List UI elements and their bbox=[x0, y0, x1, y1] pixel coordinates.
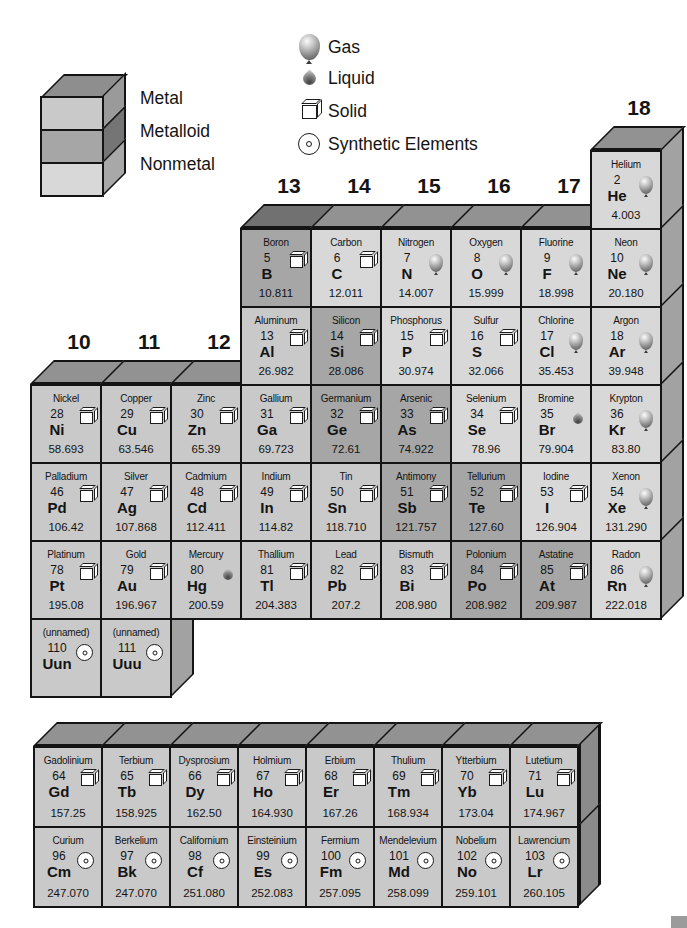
element-cell-au: Gold79Au196.967 bbox=[100, 540, 172, 620]
metalloid-label: Metalloid bbox=[140, 121, 210, 142]
element-name: Selenium bbox=[452, 393, 520, 404]
element-cell-si: Silicon14Si28.086 bbox=[310, 306, 382, 386]
solid-cube-icon bbox=[500, 568, 513, 580]
synthetic-circle-icon bbox=[485, 852, 502, 869]
solid-cube-icon bbox=[220, 412, 233, 424]
element-cell-lu: Lutetium71Lu174.967 bbox=[509, 746, 579, 828]
solid-cube-icon bbox=[290, 488, 303, 506]
solid-cube-icon bbox=[290, 412, 303, 424]
solid-cube-icon bbox=[570, 490, 583, 502]
atomic-mass: 30.974 bbox=[382, 365, 450, 377]
gas-balloon-icon bbox=[569, 254, 583, 276]
solid-cube-icon bbox=[430, 490, 443, 502]
atomic-mass: 127.60 bbox=[452, 521, 520, 533]
element-cell-cl: Chlorine17Cl35.453 bbox=[520, 306, 592, 386]
element-cell-hg: Mercury80Hg200.59 bbox=[170, 540, 242, 620]
element-cell-bk: Berkelium97Bk247.070 bbox=[101, 826, 171, 908]
element-cell-sb: Antimony51Sb121.757 bbox=[380, 462, 452, 542]
liquid-label: Liquid bbox=[328, 68, 375, 89]
liquid-legend-row: Liquid bbox=[290, 68, 375, 89]
element-name: Helium bbox=[592, 159, 660, 170]
solid-cube-icon bbox=[290, 256, 303, 268]
solid-cube-icon bbox=[353, 772, 366, 790]
synthetic-circle-icon bbox=[213, 852, 230, 873]
atomic-mass: 39.948 bbox=[592, 365, 660, 377]
gas-balloon-icon bbox=[639, 410, 653, 428]
element-name: Germanium bbox=[312, 393, 380, 404]
gas-balloon-icon bbox=[639, 566, 653, 588]
element-cell-no: Nobelium102No259.101 bbox=[441, 826, 511, 908]
element-cell-tm: Thulium69Tm168.934 bbox=[373, 746, 443, 828]
synthetic-circle-icon bbox=[298, 133, 320, 155]
solid-cube-icon bbox=[220, 410, 233, 428]
solid-cube-icon bbox=[353, 774, 366, 786]
solid-cube-icon bbox=[360, 488, 373, 506]
element-cell-cm: Curium96Cm247.070 bbox=[33, 826, 103, 908]
element-name: Radon bbox=[592, 549, 660, 560]
solid-cube-icon bbox=[360, 412, 373, 424]
element-cell-at: Astatine85At209.987 bbox=[520, 540, 592, 620]
solid-cube-icon bbox=[217, 772, 230, 790]
solid-cube-icon bbox=[302, 105, 317, 119]
atomic-mass: 167.26 bbox=[307, 807, 373, 819]
element-name: (unnamed) bbox=[102, 627, 170, 638]
solid-cube-icon bbox=[150, 490, 163, 502]
solid-cube-icon bbox=[557, 772, 570, 790]
element-name: Sulfur bbox=[452, 315, 520, 326]
solid-cube-icon bbox=[290, 334, 303, 346]
atomic-mass: 131.290 bbox=[592, 521, 660, 533]
synthetic-circle-icon bbox=[145, 852, 162, 873]
element-name: Carbon bbox=[312, 237, 380, 248]
solid-cube-icon bbox=[360, 332, 373, 350]
solid-cube-icon bbox=[430, 334, 443, 346]
group-header-18: 18 bbox=[604, 96, 674, 120]
element-cell-in: Indium49In114.82 bbox=[240, 462, 312, 542]
element-name: Arsenic bbox=[382, 393, 450, 404]
element-name: Terbium bbox=[103, 755, 169, 766]
element-cell-pd: Palladium46Pd106.42 bbox=[30, 462, 102, 542]
atomic-mass: 259.101 bbox=[443, 887, 509, 899]
atomic-mass: 26.982 bbox=[242, 365, 310, 377]
element-cell-yb: Ytterbium70Yb173.04 bbox=[441, 746, 511, 828]
synthetic-circle-icon bbox=[281, 852, 298, 873]
element-cell-o: Oxygen8O15.999 bbox=[450, 228, 522, 308]
element-cell-md: Mendelevium101Md258.099 bbox=[373, 826, 443, 908]
element-name: Nickel bbox=[32, 393, 100, 404]
gas-balloon-icon bbox=[639, 488, 653, 506]
element-cell-cd: Cadmium48Cd112.411 bbox=[170, 462, 242, 542]
element-name: Mercury bbox=[172, 549, 240, 560]
element-name: Erbium bbox=[307, 755, 373, 766]
element-name: Oxygen bbox=[452, 237, 520, 248]
atomic-mass: 12.011 bbox=[312, 287, 380, 299]
element-cell-ne: Neon10Ne20.180 bbox=[590, 228, 662, 308]
solid-cube-icon bbox=[150, 410, 163, 428]
atomic-mass: 208.980 bbox=[382, 599, 450, 611]
solid-cube-icon bbox=[360, 566, 373, 584]
solid-cube-icon bbox=[290, 568, 303, 580]
element-cell-s: Sulfur16S32.066 bbox=[450, 306, 522, 386]
atomic-mass: 72.61 bbox=[312, 443, 380, 455]
solid-cube-icon bbox=[220, 488, 233, 506]
element-cell-tl: Thallium81Tl204.383 bbox=[240, 540, 312, 620]
element-name: Lawrencium bbox=[511, 835, 577, 846]
solid-cube-icon bbox=[360, 256, 373, 268]
atomic-mass: 112.411 bbox=[172, 521, 240, 533]
element-name: Boron bbox=[242, 237, 310, 248]
element-cell-pt: Platinum78Pt195.08 bbox=[30, 540, 102, 620]
atomic-mass: 107.868 bbox=[102, 521, 170, 533]
element-cell-te: Tellurium52Te127.60 bbox=[450, 462, 522, 542]
atomic-mass: 164.930 bbox=[239, 807, 305, 819]
group-header-15: 15 bbox=[394, 174, 464, 198]
solid-cube-icon bbox=[80, 488, 93, 506]
atomic-mass: 174.967 bbox=[511, 807, 577, 819]
element-cell-c: Carbon6C12.011 bbox=[310, 228, 382, 308]
atomic-mass: 252.083 bbox=[239, 887, 305, 899]
atomic-mass: 204.383 bbox=[242, 599, 310, 611]
periodic-table-page: Metal Metalloid Nonmetal Gas Liquid Soli… bbox=[0, 0, 687, 928]
element-name: Gallium bbox=[242, 393, 310, 404]
solid-cube-icon bbox=[290, 490, 303, 502]
element-name: Thulium bbox=[375, 755, 441, 766]
synthetic-circle-icon bbox=[76, 644, 93, 661]
solid-cube-icon bbox=[290, 332, 303, 350]
group-header-16: 16 bbox=[464, 174, 534, 198]
